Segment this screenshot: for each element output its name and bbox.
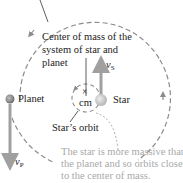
note-line-2: the planet and so orbits closer <box>61 158 183 171</box>
cm-label: cm <box>79 97 92 109</box>
star-body <box>95 94 107 106</box>
orbit-pointer-line <box>40 0 48 22</box>
orbit-diagram: Center of mass of the system of star and… <box>0 0 183 183</box>
center-of-mass-label-1: Center of mass of the <box>42 31 132 43</box>
star-label: Star <box>113 94 130 106</box>
planet-velocity-label: vP <box>15 156 24 171</box>
center-of-mass-label-3: planet <box>42 57 68 69</box>
planet-label: Planet <box>18 93 44 105</box>
note-line-1: The star is more massive than <box>61 146 183 159</box>
star-orbit-pointer <box>70 111 78 122</box>
star-orbit-label: Star’s orbit <box>52 122 99 134</box>
planet-body <box>6 95 15 104</box>
note-line-3: to the center of mass. <box>61 170 151 183</box>
note-pointer <box>96 113 118 150</box>
center-of-mass-label-2: system of star and <box>42 44 118 56</box>
star-velocity-label: vS <box>106 59 115 74</box>
